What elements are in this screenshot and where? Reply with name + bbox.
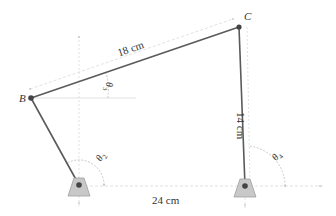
four-bar-linkage-diagram [0, 0, 336, 216]
point-label-c: C [244, 11, 251, 22]
link-bc [31, 27, 239, 98]
dimension-label-cd: 14 cm [235, 112, 246, 139]
joint-b [28, 95, 34, 101]
point-label-b: B [19, 93, 26, 104]
link-cd [239, 27, 245, 186]
joint-c [236, 24, 241, 29]
joint-d [242, 183, 248, 189]
joint-a [76, 182, 82, 188]
tick-dots [29, 18, 321, 206]
theta3-subscript: 3 [101, 87, 109, 91]
dimension-label-ad: 24 cm [152, 195, 179, 206]
link-ab [31, 98, 79, 185]
angle-label-theta3: θ3 [101, 82, 114, 90]
angle-arcs [67, 72, 285, 186]
